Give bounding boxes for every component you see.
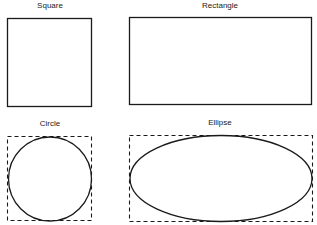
circle-shape [9, 137, 92, 221]
ellipse-shape [130, 136, 312, 222]
shapes-diagram [0, 0, 317, 225]
rectangle-shape [130, 18, 312, 105]
square-shape [8, 19, 92, 107]
